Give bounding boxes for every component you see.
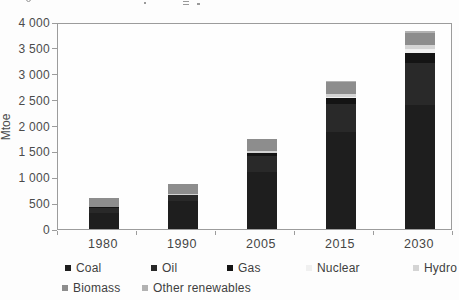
bar-2005 (247, 139, 277, 229)
y-tick (52, 126, 57, 127)
y-tick (52, 74, 57, 75)
bar-segment-coal (89, 213, 119, 229)
y-tick (52, 48, 57, 49)
bar-segment-coal (326, 132, 356, 229)
legend-swatch-coal (65, 265, 71, 271)
legend-swatch-biomass (62, 285, 68, 291)
bar-segment-biomass (247, 139, 277, 151)
legend-item-coal: Coal (65, 262, 101, 274)
bar-segment-gas (405, 53, 435, 63)
legend-label-biomass: Biomass (73, 281, 120, 295)
x-tick (294, 231, 295, 235)
x-category-label: 2030 (387, 237, 451, 251)
bar-segment-biomass (89, 198, 119, 207)
y-tick-label: 3 000 (0, 69, 50, 81)
y-tick (52, 152, 57, 153)
x-tick (373, 231, 374, 235)
legend-item-hydro: Hydro (413, 262, 457, 274)
y-tick-label: 2 500 (0, 95, 50, 107)
bar-segment-biomass (326, 82, 356, 94)
cropped-text-fragment (183, 4, 189, 5)
plot-area (57, 23, 452, 230)
cropped-text-fragment (144, 2, 146, 4)
bar-2030 (405, 31, 435, 229)
y-tick-label: 2 000 (0, 121, 50, 133)
legend-swatch-hydro (413, 265, 419, 271)
x-tick (136, 231, 137, 235)
x-category-label: 1980 (71, 237, 135, 251)
x-tick (57, 231, 58, 235)
legend-swatch-other-renewables (142, 285, 148, 291)
y-tick-label: 1 500 (0, 146, 50, 158)
legend-swatch-gas (227, 265, 233, 271)
y-tick-label: 1 000 (0, 172, 50, 184)
bar-segment-oil (405, 63, 435, 105)
y-tick-label: 500 (0, 198, 50, 210)
legend-item-other-renewables: Other renewables (142, 282, 251, 294)
y-tick-label: 0 (0, 224, 50, 236)
legend-label-nuclear: Nuclear (317, 261, 360, 275)
bar-1980 (89, 198, 119, 229)
x-category-label: 1990 (150, 237, 214, 251)
y-tick (52, 100, 57, 101)
bar-segment-biomass (405, 33, 435, 45)
x-category-label: 2005 (229, 237, 293, 251)
legend-swatch-oil (151, 265, 157, 271)
y-tick (52, 204, 57, 205)
bar-segment-coal (247, 172, 277, 229)
legend-label-hydro: Hydro (424, 261, 457, 275)
bar-segment-coal (405, 105, 435, 229)
legend-item-oil: Oil (151, 262, 177, 274)
legend-item-nuclear: Nuclear (306, 262, 360, 274)
legend-swatch-nuclear (306, 265, 312, 271)
y-tick-label: 4 000 (0, 17, 50, 29)
x-category-label: 2015 (308, 237, 372, 251)
bar-2015 (326, 81, 356, 229)
legend-label-other-renewables: Other renewables (153, 281, 251, 295)
bar-segment-oil (247, 156, 277, 173)
y-tick-label: 3 500 (0, 43, 50, 55)
legend-label-oil: Oil (162, 261, 177, 275)
legend-label-coal: Coal (76, 261, 101, 275)
cropped-text-fragment (26, 0, 31, 2)
y-tick (52, 23, 57, 24)
cropped-text-fragment (183, 1, 189, 2)
bar-segment-coal (168, 201, 198, 229)
cropped-text-fragment (197, 3, 200, 5)
bar-segment-oil (326, 104, 356, 132)
bar-1990 (168, 184, 198, 229)
legend-item-gas: Gas (227, 262, 261, 274)
x-tick (215, 231, 216, 235)
legend-label-gas: Gas (238, 261, 261, 275)
legend-item-biomass: Biomass (62, 282, 120, 294)
bar-segment-biomass (168, 184, 198, 194)
y-tick (52, 178, 57, 179)
x-tick (452, 231, 453, 235)
energy-demand-chart-figure: Mtoe 05001 0001 5002 0002 5003 0003 5004… (0, 0, 459, 300)
